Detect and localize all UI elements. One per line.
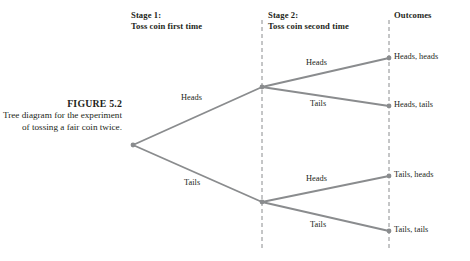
node-heads	[260, 85, 265, 90]
outcome-tails-heads: Tails, heads	[394, 170, 433, 180]
branch-label-stage2-upper-heads: Heads	[306, 58, 327, 68]
figure-tree-diagram: Stage 1: Toss coin first time Stage 2: T…	[0, 0, 470, 261]
node-heads-heads	[387, 56, 392, 61]
node-tails	[260, 200, 265, 205]
node-root	[131, 143, 136, 148]
stage-1-header: Stage 1: Toss coin first time	[131, 10, 202, 32]
outcome-heads-tails: Heads, tails	[394, 100, 433, 110]
figure-description: Tree diagram for the experiment of tossi…	[2, 110, 122, 133]
branch-label-stage2-lower-tails: Tails	[310, 220, 326, 230]
outcomes-header: Outcomes	[394, 10, 432, 21]
node-tails-tails	[387, 229, 392, 234]
stage-1-header-line1: Stage 1:	[131, 10, 202, 21]
stage-2-header-line2: Toss coin second time	[268, 21, 349, 32]
figure-number: FIGURE 5.2	[2, 98, 122, 110]
outcome-heads-heads: Heads, heads	[394, 52, 438, 62]
node-heads-tails	[387, 104, 392, 109]
stage-2-header-line1: Stage 2:	[268, 10, 349, 21]
branch-label-stage1-tails: Tails	[184, 178, 200, 188]
branch-label-stage2-lower-heads: Heads	[306, 174, 327, 184]
outcome-tails-tails: Tails, tails	[394, 225, 428, 235]
node-tails-heads	[387, 174, 392, 179]
stage-2-header: Stage 2: Toss coin second time	[268, 10, 349, 32]
stage-1-header-line2: Toss coin first time	[131, 21, 202, 32]
figure-caption: FIGURE 5.2 Tree diagram for the experime…	[2, 98, 122, 133]
edge-root-to-tails	[133, 145, 262, 202]
branch-label-stage2-upper-tails: Tails	[310, 99, 326, 109]
branch-label-stage1-heads: Heads	[181, 93, 202, 103]
